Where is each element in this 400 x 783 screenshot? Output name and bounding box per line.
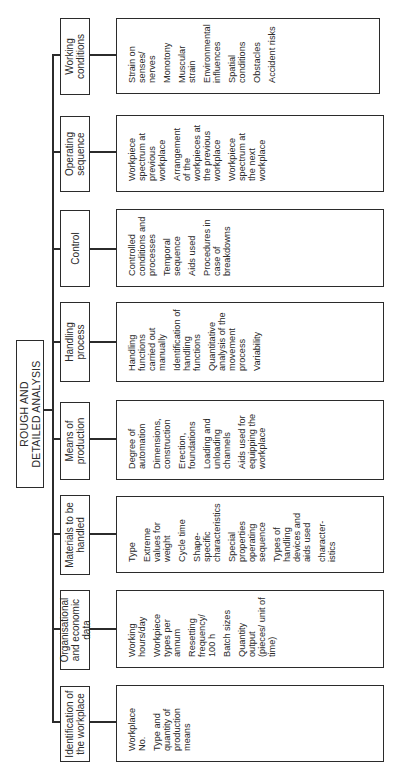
list-item: Workpiece types per annum	[152, 597, 182, 657]
category-connector	[90, 721, 116, 723]
list-item: Working hours/day	[127, 597, 147, 657]
category-box-handling-process: Handling process	[60, 302, 90, 382]
category-connector	[90, 248, 116, 250]
content-box-handling-process: Handling functions carried out manually …	[116, 302, 384, 382]
content-box-identification: Workplace No. Type and quantity of produ…	[116, 685, 384, 762]
category-connector	[90, 438, 116, 440]
root-box: ROUGH AND DETAILED ANALYSIS	[16, 340, 44, 488]
category-box-identification: Identification of the workplace	[60, 686, 90, 762]
list-item: Aids used for equipping the workplace	[237, 407, 267, 469]
list-item: Cycle time	[177, 503, 187, 562]
list-item: Quantity output (pieces/ unit of time)	[237, 597, 277, 657]
list-item: Aids used	[187, 216, 197, 276]
list-item: Obstacles	[252, 25, 262, 83]
content-box-operating-sequence: Workpiece spectrum at previous workplace…	[116, 115, 384, 192]
content-box-organisational: Working hours/day Workpiece types per an…	[116, 590, 384, 668]
list-item: Types of handling devices and aids used	[272, 503, 312, 562]
category-connector	[90, 628, 116, 630]
list-item: Spatial conditions	[227, 25, 247, 83]
category-box-organisational: Organisational and economic data	[60, 590, 90, 670]
list-item: Controlled conditions and processes	[127, 216, 157, 276]
analysis-diagram: ROUGH AND DETAILED ANALYSIS Identificati…	[0, 0, 400, 783]
list-item: Environmental influences	[202, 25, 222, 83]
list-item: Workpiece spectrum at previous workplace	[127, 122, 167, 181]
list-item: Identification of handling functions	[172, 309, 202, 371]
category-box-materials: Materials to be handled	[60, 495, 90, 575]
list-item: Muscular strain	[177, 25, 197, 83]
spine-line	[52, 55, 54, 723]
category-box-means-of-production: Means of production	[60, 402, 90, 480]
list-item: Accident risks	[267, 25, 277, 83]
content-box-control: Controlled conditions and processes Temp…	[116, 209, 384, 287]
list-item: character-istics	[317, 503, 337, 562]
root-title: ROUGH AND DETAILED ANALYSIS	[18, 361, 42, 468]
list-item: Handling functions carried out manually	[127, 309, 167, 371]
list-item: Strain on senses/ nerves	[127, 25, 157, 83]
list-item: Variability	[252, 309, 262, 371]
list-item: Temporal sequence	[162, 216, 182, 276]
list-item: Arrangement of the workpieces at the pre…	[172, 122, 222, 181]
list-item: Special properties operating sequence	[227, 503, 267, 562]
category-connector	[90, 54, 116, 56]
list-item: Batch sizes	[222, 597, 232, 657]
list-item: Dimensions, construction	[152, 407, 172, 469]
list-item: Resetting frequency/ 100 h	[187, 597, 217, 657]
list-item: Type	[127, 503, 137, 562]
list-item: Extreme values for weight	[142, 503, 172, 562]
list-item: Loading and unloading channels	[202, 407, 232, 469]
content-box-working-conditions: Strain on senses/ nerves Monotony Muscul…	[116, 18, 380, 94]
list-item: Procedures in case of breakdowns	[202, 216, 232, 276]
category-box-operating-sequence: Operating sequence	[60, 116, 90, 192]
category-box-working-conditions: Working conditions	[60, 18, 90, 95]
list-item: Type and quantity of production means	[152, 692, 192, 751]
list-item: Workpiece spectrum at the next workplace	[227, 122, 267, 181]
category-connector	[90, 341, 116, 343]
content-box-materials: Type Extreme values for weight Cycle tim…	[116, 496, 384, 573]
list-item: Quantitative analysis of the movement pr…	[207, 309, 247, 371]
list-item: Monotony	[162, 25, 172, 83]
list-item: Shape-specific characteristics	[192, 503, 222, 562]
content-box-means-of-production: Degree of automation Dimensions, constru…	[116, 400, 384, 480]
category-box-control: Control	[60, 210, 90, 287]
category-connector	[90, 533, 116, 535]
list-item: Workplace No.	[127, 692, 147, 751]
list-item: Erection, foundations	[177, 407, 197, 469]
category-connector	[90, 151, 116, 153]
list-item: Degree of automation	[127, 407, 147, 469]
